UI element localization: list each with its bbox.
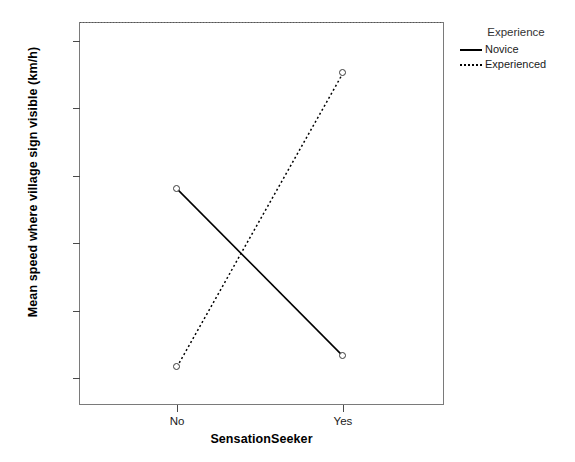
data-point-experienced-yes [339,69,346,76]
y-tick-mark [73,176,80,177]
y-axis-title: Mean speed where village sign visible (k… [26,2,40,362]
legend-dotted-line-icon [460,60,482,69]
legend-item-experienced[interactable]: Experienced [460,58,572,70]
y-tick-mark [73,108,80,109]
x-tick-mark [343,405,344,412]
x-axis-title: SensationSeeker [79,432,444,446]
plot-area [79,22,444,405]
legend: Experience Novice Experienced [460,26,572,73]
y-tick-mark [73,311,80,312]
y-tick-mark [73,41,80,42]
data-point-novice-no [173,185,180,192]
legend-label-experienced: Experienced [485,58,546,70]
legend-label-novice: Novice [485,43,519,55]
legend-item-novice[interactable]: Novice [460,43,572,55]
legend-solid-line-icon [460,45,482,54]
y-tick-mark [73,378,80,379]
y-tick-mark [73,243,80,244]
x-tick-label: Yes [303,415,383,427]
legend-title: Experience [460,26,572,38]
interaction-plot: Mean speed where village sign visible (k… [0,0,575,462]
x-tick-mark [177,405,178,412]
x-tick-label: No [137,415,217,427]
data-point-experienced-no [173,363,180,370]
